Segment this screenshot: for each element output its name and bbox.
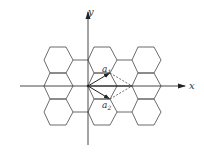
lattice-diagram: x y a1 a2	[0, 0, 204, 155]
hexagon	[132, 99, 161, 125]
vector-a1-label: a1	[102, 64, 111, 75]
x-axis-label: x	[189, 80, 195, 91]
vector-a2-label: a2	[102, 100, 111, 111]
hexagon	[132, 47, 161, 73]
y-axis-label: y	[87, 6, 94, 17]
hexagon	[44, 47, 73, 73]
origin-point	[87, 85, 89, 87]
hexagon	[44, 99, 73, 125]
